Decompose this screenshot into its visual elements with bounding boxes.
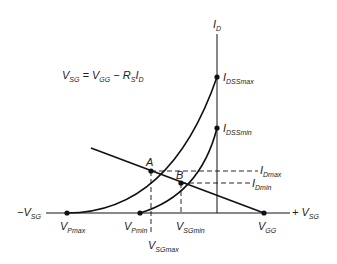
vsg-min-label: VSGmin	[176, 221, 205, 234]
point-idss-min	[214, 125, 219, 130]
vp-max-label: VPmax	[60, 221, 85, 234]
point-idss-max	[214, 74, 219, 79]
point-b-label: B	[176, 170, 183, 181]
point-a-label: A	[146, 157, 153, 168]
point-vgg	[261, 210, 266, 215]
x-axis-neg-label: −VSG	[17, 207, 41, 220]
point-a	[148, 168, 153, 173]
idss-min-label: IDSSmin	[223, 123, 252, 136]
equation: VSG = VGG − RSID	[62, 70, 144, 83]
point-b	[178, 180, 183, 185]
load-line-diagram	[0, 0, 337, 264]
point-vp-min	[137, 210, 142, 215]
vp-min-label: VPmin	[124, 221, 147, 234]
id-max-label: IDmax	[260, 165, 281, 178]
vgg-label: VGG	[258, 221, 276, 234]
idss-max-label: IDSSmax	[223, 72, 254, 85]
y-axis-label: ID	[213, 19, 221, 32]
id-min-label: IDmin	[252, 178, 271, 191]
curve-max	[67, 77, 217, 213]
point-vp-max	[64, 210, 69, 215]
vsg-max-label: VSGmax	[148, 240, 179, 253]
x-axis-pos-label: + VSG	[292, 207, 319, 220]
